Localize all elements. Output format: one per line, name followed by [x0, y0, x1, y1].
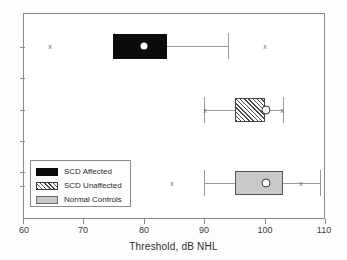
legend-label: SCD Unaffected [64, 181, 122, 190]
legend-label: Normal Controls [64, 195, 122, 204]
x-axis-label: 60 [19, 225, 29, 235]
median-marker [141, 43, 148, 50]
median-marker [262, 106, 271, 115]
x-axis-label: 80 [139, 225, 149, 235]
legend-swatch-solid-icon [36, 168, 58, 176]
x-axis-tick [23, 219, 24, 224]
y-axis-tick [20, 172, 25, 173]
y-axis-tick [20, 47, 25, 48]
median-marker [262, 179, 271, 188]
outlier-marker: x [263, 43, 267, 50]
outlier-marker: x [170, 180, 174, 187]
legend-item-scd-affected: SCD Affected [36, 165, 125, 178]
x-axis-label: 110 [317, 225, 331, 235]
y-axis-tick [20, 141, 25, 142]
boxplot-figure: x x x x x x 60 70 80 90 [0, 0, 347, 260]
x-axis-label: 100 [257, 225, 272, 235]
outlier-marker: x [203, 107, 207, 114]
x-axis-label: 90 [199, 225, 209, 235]
x-axis-tick [204, 219, 205, 224]
x-axis-tick [83, 219, 84, 224]
x-axis-tick [265, 219, 266, 224]
outlier-marker: x [48, 43, 52, 50]
legend-item-scd-unaffected: SCD Unaffected [36, 179, 125, 192]
legend: SCD Affected SCD Unaffected Normal Contr… [30, 160, 131, 207]
y-axis-tick [20, 110, 25, 111]
y-axis-tick [20, 186, 25, 187]
x-axis-title: Threshold, dB NHL [0, 241, 347, 252]
x-axis-label: 70 [78, 225, 88, 235]
outlier-marker: x [280, 107, 284, 114]
legend-swatch-gray-icon [36, 196, 58, 204]
outlier-marker: x [299, 180, 303, 187]
legend-label: SCD Affected [64, 167, 112, 176]
y-axis-tick [20, 78, 25, 79]
legend-item-normal-controls: Normal Controls [36, 193, 125, 206]
box-iqr [235, 98, 265, 122]
whisker-cap-high [228, 33, 229, 59]
whisker-cap-high [320, 170, 321, 196]
box-iqr [235, 171, 283, 195]
x-axis-tick [144, 219, 145, 224]
x-axis-tick [325, 219, 326, 224]
legend-swatch-hatch-icon [36, 182, 58, 190]
